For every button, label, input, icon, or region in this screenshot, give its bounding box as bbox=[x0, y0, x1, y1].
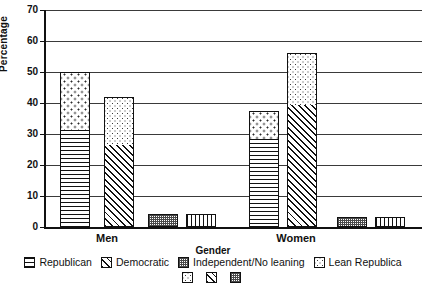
legend-item-republican[interactable]: Republican bbox=[24, 257, 92, 268]
bar-men-republican[interactable] bbox=[60, 72, 90, 227]
legend-swatch-lean-democratic-icon bbox=[182, 272, 193, 283]
segment-independent bbox=[149, 215, 177, 226]
segment-lean-republican bbox=[61, 72, 89, 130]
segment-republican bbox=[61, 130, 89, 226]
legend-item-row2-b[interactable] bbox=[206, 272, 221, 283]
legend: Republican Democratic Independent/No lea… bbox=[0, 257, 426, 268]
legend-label: Democratic bbox=[116, 257, 169, 268]
segment-lean bbox=[187, 215, 215, 226]
bar-men-democratic[interactable] bbox=[104, 97, 134, 227]
y-axis-ticks: 70 60 50 40 30 20 10 0 bbox=[0, 10, 44, 229]
x-tick-men: Men bbox=[62, 232, 152, 244]
legend-item-independent[interactable]: Independent/No leaning bbox=[178, 257, 305, 268]
bar-women-republican[interactable] bbox=[249, 111, 279, 227]
y-tick-30: 30 bbox=[8, 129, 38, 139]
legend-swatch-row2-c-icon bbox=[230, 272, 241, 283]
legend-label: Lean Republica bbox=[329, 257, 402, 268]
legend-item-row2-c[interactable] bbox=[230, 272, 245, 283]
segment-democratic bbox=[288, 105, 316, 226]
legend-item-row2-a[interactable] bbox=[182, 272, 197, 283]
bar-men-independent[interactable] bbox=[148, 214, 178, 227]
bar-group-women bbox=[249, 8, 409, 227]
x-tick-women: Women bbox=[251, 232, 341, 244]
bar-men-lean-republican[interactable] bbox=[186, 214, 216, 227]
bar-group-men bbox=[60, 8, 220, 227]
y-tick-0: 0 bbox=[8, 222, 38, 232]
y-tick-20: 20 bbox=[8, 160, 38, 170]
bar-women-independent[interactable] bbox=[337, 217, 367, 227]
y-tick-70: 70 bbox=[8, 5, 38, 15]
segment-lean bbox=[376, 218, 404, 226]
legend-item-lean-republican[interactable]: Lean Republica bbox=[314, 257, 402, 268]
y-tick-40: 40 bbox=[8, 98, 38, 108]
segment-republican bbox=[250, 139, 278, 226]
y-tick-10: 10 bbox=[8, 191, 38, 201]
segment-independent bbox=[338, 218, 366, 226]
plot-area bbox=[44, 10, 422, 229]
segment-lean-republican bbox=[250, 111, 278, 139]
bar-women-democratic[interactable] bbox=[287, 53, 317, 227]
y-tick-50: 50 bbox=[8, 67, 38, 77]
y-tick-60: 60 bbox=[8, 36, 38, 46]
legend-label: Republican bbox=[39, 257, 92, 268]
segment-democratic bbox=[105, 145, 133, 226]
segment-lean-democratic bbox=[105, 97, 133, 145]
x-axis-title: Gender bbox=[0, 245, 426, 256]
legend-row-2 bbox=[0, 272, 426, 283]
bar-women-lean-republican[interactable] bbox=[375, 217, 405, 227]
legend-swatch-republican-icon bbox=[24, 257, 35, 268]
legend-swatch-democratic-icon bbox=[101, 257, 112, 268]
legend-label: Independent/No leaning bbox=[193, 257, 305, 268]
legend-swatch-lean-republican-icon bbox=[314, 257, 325, 268]
legend-item-democratic[interactable]: Democratic bbox=[101, 257, 169, 268]
legend-swatch-row2-b-icon bbox=[206, 272, 217, 283]
legend-swatch-independent-icon bbox=[178, 257, 189, 268]
segment-lean-democratic bbox=[288, 53, 316, 105]
